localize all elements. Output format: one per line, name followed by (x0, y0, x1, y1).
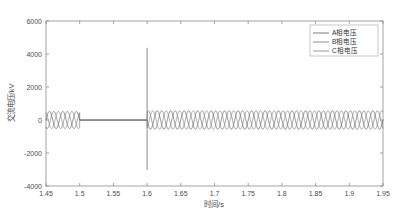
y-tick-label: 0 (38, 117, 42, 124)
x-tick-label: 1.9 (344, 190, 354, 197)
x-tick-label: 1.5 (75, 190, 85, 197)
x-tick-label: 1.45 (39, 190, 53, 197)
y-axis-title: 交流电压/kV (6, 84, 16, 123)
x-tick-label: 1.95 (376, 190, 390, 197)
y-tick-label: -2000 (24, 150, 42, 157)
x-tick-label: 1.85 (309, 190, 323, 197)
x-axis-title: 时间/s (204, 199, 224, 209)
y-tick-label: -4000 (24, 183, 42, 190)
y-tick-label: 2000 (26, 84, 42, 91)
chart-legend[interactable]: A相电压B相电压C相电压 (310, 25, 378, 56)
x-tick-label: 1.55 (107, 190, 121, 197)
x-tick-label: 1.65 (174, 190, 188, 197)
legend-label-3: C相电压 (332, 46, 358, 55)
x-tick-label: 1.75 (241, 190, 255, 197)
legend-label-1: A相电压 (332, 28, 357, 37)
x-tick-label: 1.8 (277, 190, 287, 197)
chart-figure: 6000400020000-2000-4000 1.451.51.551.61.… (0, 0, 403, 218)
legend-label-2: B相电压 (332, 37, 357, 46)
x-tick-label: 1.6 (142, 190, 152, 197)
three-phase-voltage-chart: 6000400020000-2000-4000 1.451.51.551.61.… (0, 0, 403, 218)
y-tick-label: 4000 (26, 51, 42, 58)
x-tick-label: 1.7 (210, 190, 220, 197)
y-tick-label: 6000 (26, 18, 42, 25)
